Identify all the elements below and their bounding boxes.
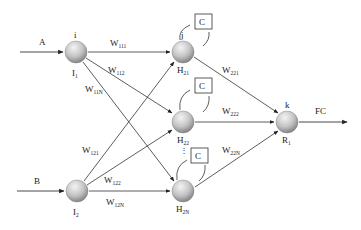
svg-text:H21: H21: [177, 65, 189, 76]
output-label: FC: [315, 106, 326, 116]
svg-text:H22: H22: [177, 135, 189, 146]
input-label-b: B: [34, 176, 40, 186]
hidden-ellipsis: ⋮: [180, 146, 188, 155]
node-h22: H22: [172, 111, 194, 146]
svg-text:I2: I2: [73, 207, 79, 218]
edge-i1-h22: [86, 58, 172, 113]
input-arrow-b: B: [17, 176, 64, 191]
input-arrow-a: A: [20, 37, 63, 52]
svg-text:C: C: [199, 17, 205, 27]
weight-w222: W222: [222, 106, 239, 117]
node-h21: j H21: [172, 30, 194, 76]
weight-w121: W121: [82, 145, 99, 156]
weight-labels: W111 W112 W11N W121 W122 W12N W221 W222 …: [82, 38, 240, 208]
svg-text:I1: I1: [72, 68, 78, 79]
weight-w11n: W11N: [85, 84, 103, 95]
weight-w112: W112: [108, 65, 125, 76]
weight-w111: W111: [110, 38, 127, 49]
svg-text:R1: R1: [282, 135, 291, 146]
node-i2: I2: [66, 180, 88, 218]
output-arrow: FC: [299, 106, 347, 122]
neural-network-diagram: A B FC W111 W112 W11N W121 W122 W12N W22…: [0, 0, 361, 230]
node-i1: i I1: [65, 30, 87, 79]
svg-text:i: i: [74, 30, 77, 40]
svg-text:j: j: [180, 30, 184, 40]
context-unit-h22: C: [180, 78, 212, 112]
connections-input-to-hidden: [83, 52, 174, 191]
input-label-a: A: [39, 37, 46, 47]
weight-w122: W122: [104, 175, 121, 186]
weight-w22n: W22N: [222, 145, 240, 156]
node-h2n: H2N: [172, 180, 194, 215]
node-r1: k R1: [276, 100, 298, 146]
svg-text:C: C: [199, 81, 205, 91]
connections-hidden-to-output: [194, 57, 278, 187]
svg-text:k: k: [285, 100, 290, 110]
svg-text:C: C: [195, 151, 201, 161]
weight-w221: W221: [222, 65, 239, 76]
svg-text:H2N: H2N: [176, 204, 189, 215]
edge-i2-h22: [87, 130, 172, 185]
weight-w12n: W12N: [106, 197, 124, 208]
